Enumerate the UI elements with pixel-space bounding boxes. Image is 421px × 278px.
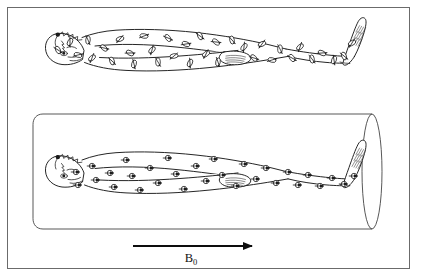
panel-top-random-spins xyxy=(45,18,366,71)
b0-arrow-label: B0 xyxy=(185,251,198,267)
b0-field-arrow: B0 xyxy=(133,246,252,267)
mri-spin-diagram: B0 xyxy=(0,0,421,278)
b0-label-subscript: 0 xyxy=(193,257,197,267)
b0-label-main: B xyxy=(185,251,193,265)
figure-root: B0 xyxy=(0,0,421,278)
panel-bottom-aligned-spins xyxy=(33,114,382,229)
magnet-bore-cylinder xyxy=(33,114,382,229)
bore-opening-ellipse xyxy=(362,114,382,229)
human-body-outline-top xyxy=(45,18,366,71)
